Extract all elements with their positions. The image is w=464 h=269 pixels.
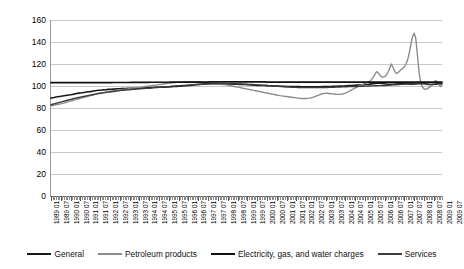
x-axis-tick-label: 2004 07 — [358, 201, 365, 224]
x-axis-tick — [363, 196, 364, 200]
x-axis-tick — [239, 196, 240, 200]
x-axis-tick — [92, 196, 93, 200]
y-axis-tick-label: 100 — [2, 82, 46, 91]
x-axis-tick — [378, 196, 379, 200]
x-axis-tick — [422, 196, 423, 200]
legend-label: Services — [405, 250, 437, 259]
legend-item[interactable]: Services — [378, 250, 437, 259]
y-axis-tick-label: 0 — [2, 192, 46, 201]
x-axis-tick-label: 1995 07 — [182, 201, 189, 224]
x-axis-tick — [172, 196, 173, 200]
legend-item[interactable]: General — [27, 250, 84, 259]
x-axis-tick — [399, 196, 400, 200]
x-axis-tick-label: 1998 01 — [231, 201, 238, 224]
x-axis-tick — [391, 196, 392, 200]
x-axis-tick — [303, 196, 304, 200]
x-axis-tick-labels: 1989 011989 071990 011990 071991 011991 … — [0, 201, 464, 241]
x-axis-tick-label: 2001 07 — [300, 201, 307, 224]
x-axis-tick — [314, 196, 315, 200]
x-axis-tick — [350, 196, 351, 200]
x-axis-tick — [98, 196, 99, 200]
x-axis-tick — [255, 196, 256, 200]
x-axis-tick-label: 2009 01 — [447, 201, 454, 224]
x-axis-tick — [370, 196, 371, 200]
x-axis-tick — [435, 196, 436, 200]
x-axis-tick — [128, 196, 129, 200]
chart-legend: GeneralPetroleum productsElectricity, ga… — [0, 246, 464, 262]
x-axis-tick — [74, 196, 75, 200]
legend-swatch-icon — [211, 253, 235, 255]
x-axis-tick — [311, 196, 312, 200]
x-axis-tick-label: 2003 07 — [339, 201, 346, 224]
x-axis-tick — [442, 196, 443, 200]
x-axis-tick — [419, 196, 420, 200]
x-axis-tick-label: 2008 01 — [427, 201, 434, 224]
x-axis-tick — [175, 196, 176, 200]
x-axis-tick-label: 1996 07 — [201, 201, 208, 224]
x-axis-tick — [224, 196, 225, 200]
x-axis-tick — [401, 196, 402, 200]
x-axis-tick — [154, 196, 155, 200]
x-axis-tick — [406, 196, 407, 200]
x-axis-tick-label: 2007 01 — [408, 201, 415, 224]
x-axis-tick-label: 1994 01 — [152, 201, 159, 224]
x-axis-tick — [388, 196, 389, 200]
x-axis-tick — [432, 196, 433, 200]
x-axis-tick — [136, 196, 137, 200]
x-axis-tick — [411, 196, 412, 200]
x-axis-tick — [386, 196, 387, 200]
x-axis-tick-label: 2000 07 — [280, 201, 287, 224]
legend-label: Electricity, gas, and water charges — [238, 250, 364, 259]
x-axis-tick — [195, 196, 196, 200]
x-axis-tick — [324, 196, 325, 200]
x-axis-tick-label: 2007 07 — [417, 201, 424, 224]
y-axis-tick-label: 80 — [2, 104, 46, 113]
x-axis-tick — [383, 196, 384, 200]
x-axis-tick-label: 1997 01 — [211, 201, 218, 224]
x-axis-tick-label: 1989 07 — [64, 201, 71, 224]
x-axis-tick — [262, 196, 263, 200]
legend-item[interactable]: Petroleum products — [98, 250, 197, 259]
y-axis-tick-label: 60 — [2, 126, 46, 135]
x-axis-tick — [170, 196, 171, 200]
x-axis-tick — [116, 196, 117, 200]
x-axis-tick — [72, 196, 73, 200]
x-axis-tick — [301, 196, 302, 200]
x-axis-tick — [123, 196, 124, 200]
x-axis-tick — [226, 196, 227, 200]
x-axis-tick — [62, 196, 63, 200]
x-axis-tick — [242, 196, 243, 200]
x-axis-tick-label: 2006 07 — [398, 201, 405, 224]
x-axis-tick — [249, 196, 250, 200]
x-axis-tick — [126, 196, 127, 200]
x-axis-tick — [103, 196, 104, 200]
x-axis-tick — [164, 196, 165, 200]
x-axis-tick — [319, 196, 320, 200]
x-axis-tick — [321, 196, 322, 200]
x-axis-tick-label: 1990 07 — [84, 201, 91, 224]
x-axis-tick — [260, 196, 261, 200]
x-axis-tick-label: 2005 07 — [378, 201, 385, 224]
x-axis-tick — [118, 196, 119, 200]
y-axis-labels: 020406080100120140160 — [0, 0, 46, 196]
x-axis-tick — [285, 196, 286, 200]
x-axis-tick — [203, 196, 204, 200]
x-axis-tick — [190, 196, 191, 200]
x-axis-tick — [329, 196, 330, 200]
series-line — [51, 82, 442, 83]
x-axis-tick — [368, 196, 369, 200]
x-axis-tick — [357, 196, 358, 200]
y-axis-tick-label: 140 — [2, 38, 46, 47]
x-axis-tick-label: 1992 07 — [123, 201, 130, 224]
x-axis-tick — [337, 196, 338, 200]
x-axis-tick — [131, 196, 132, 200]
x-axis-tick-label: 2004 01 — [349, 201, 356, 224]
x-axis-tick — [211, 196, 212, 200]
legend-item[interactable]: Electricity, gas, and water charges — [211, 250, 364, 259]
x-axis-tick — [216, 196, 217, 200]
x-axis-tick — [56, 196, 57, 200]
x-axis-tick-label: 1991 01 — [93, 201, 100, 224]
x-axis-tick — [283, 196, 284, 200]
x-axis-tick — [278, 196, 279, 200]
x-axis-tick — [200, 196, 201, 200]
